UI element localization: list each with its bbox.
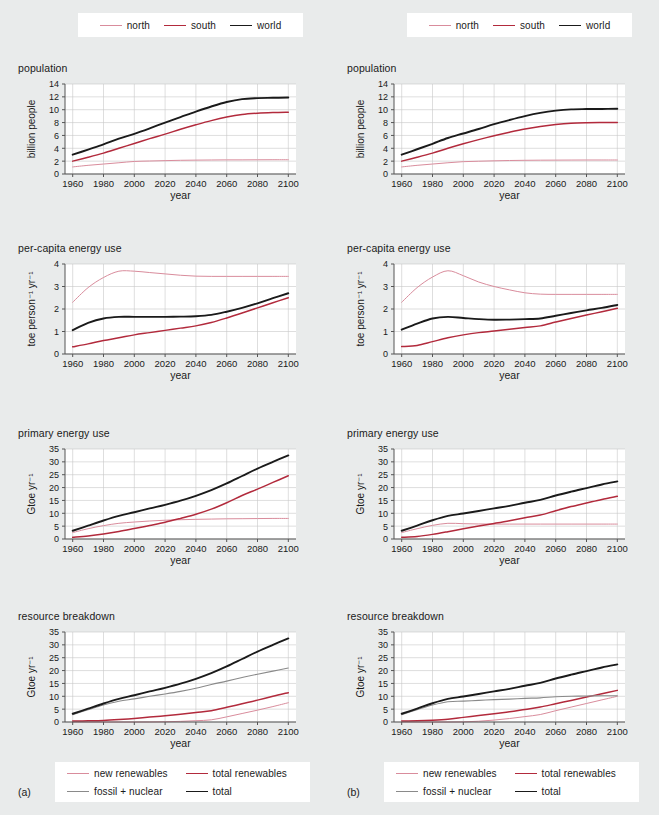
- panel-title: population: [347, 62, 396, 74]
- plot-area: 0123419601980200020202040206020802100yea…: [0, 256, 330, 382]
- x-tick-label: 2000: [124, 543, 145, 554]
- chart-svg: 0246810121419601980200020202040206020802…: [0, 76, 330, 202]
- legend-item: world: [559, 20, 610, 31]
- x-tick-label: 2020: [155, 178, 176, 189]
- y-tick-label: 8: [54, 118, 59, 128]
- x-tick-label: 2100: [278, 178, 299, 189]
- y-tick-label: 10: [378, 509, 388, 519]
- legend-swatch-line-icon: [164, 25, 186, 26]
- y-tick-label: 10: [378, 692, 388, 702]
- chart-svg: 0510152025303519601980200020202040206020…: [329, 441, 659, 567]
- x-tick-label: 2080: [576, 358, 597, 369]
- y-tick-label: 15: [49, 679, 59, 689]
- x-tick-label: 2000: [124, 358, 145, 369]
- chart-svg: 0246810121419601980200020202040206020802…: [329, 76, 659, 202]
- legend-item: world: [230, 20, 281, 31]
- chart-svg: 0510152025303519601980200020202040206020…: [0, 441, 330, 567]
- legend-label: world: [586, 20, 610, 31]
- x-tick-label: 2040: [185, 358, 206, 369]
- chart-svg: 0123419601980200020202040206020802100yea…: [0, 256, 330, 382]
- x-tick-label: 2020: [155, 358, 176, 369]
- y-axis-label: Gtoe yr⁻¹: [355, 473, 366, 515]
- legend-swatch-line-icon: [230, 25, 252, 26]
- x-tick-label: 2000: [453, 543, 474, 554]
- x-tick-label: 2060: [216, 726, 237, 737]
- y-tick-label: 6: [54, 131, 59, 141]
- y-tick-label: 30: [378, 640, 388, 650]
- panel-title: resource breakdown: [18, 610, 115, 622]
- x-tick-label: 1980: [93, 178, 114, 189]
- legend-item: fossil + nuclear: [396, 786, 515, 797]
- y-tick-label: 0: [383, 349, 388, 359]
- legend-label: fossil + nuclear: [94, 786, 163, 797]
- y-tick-label: 25: [49, 653, 59, 663]
- x-tick-label: 2020: [484, 543, 505, 554]
- y-tick-label: 15: [49, 496, 59, 506]
- x-tick-label: 2000: [124, 178, 145, 189]
- y-tick-label: 4: [54, 259, 59, 269]
- legend-label: north: [127, 20, 150, 31]
- x-tick-label: 2000: [124, 726, 145, 737]
- y-tick-label: 25: [378, 653, 388, 663]
- panel-column-b: northsouthworld population 0246810121419…: [329, 0, 659, 815]
- legend-item: north: [100, 20, 150, 31]
- y-tick-label: 10: [49, 509, 59, 519]
- legend-label: fossil + nuclear: [423, 786, 492, 797]
- y-tick-label: 2: [383, 304, 388, 314]
- legend-item: total renewables: [186, 768, 305, 779]
- y-tick-label: 12: [49, 92, 59, 102]
- x-tick-label: 2000: [453, 726, 474, 737]
- x-tick-label: 2060: [216, 178, 237, 189]
- legend-swatch-line-icon: [493, 25, 515, 26]
- legend-swatch-line-icon: [396, 773, 418, 774]
- y-tick-label: 20: [378, 483, 388, 493]
- legend-swatch-line-icon: [67, 791, 89, 792]
- x-tick-label: 2040: [185, 543, 206, 554]
- legend-bottom-a: new renewablestotal renewablesfossil + n…: [55, 762, 310, 802]
- y-tick-label: 1: [54, 327, 59, 337]
- y-tick-label: 35: [378, 444, 388, 454]
- legend-item: fossil + nuclear: [67, 786, 186, 797]
- x-tick-label: 2080: [247, 726, 268, 737]
- x-tick-label: 1980: [93, 726, 114, 737]
- x-axis-label: year: [170, 369, 191, 381]
- legend-label: new renewables: [423, 768, 497, 779]
- x-tick-label: 2040: [514, 726, 535, 737]
- legend-label: total: [542, 786, 561, 797]
- x-tick-label: 2100: [278, 543, 299, 554]
- x-tick-label: 2040: [514, 543, 535, 554]
- plot-area: 0123419601980200020202040206020802100yea…: [329, 256, 659, 382]
- legend-item: total: [515, 786, 634, 797]
- y-axis-label: Gtoe yr⁻¹: [355, 656, 366, 698]
- x-tick-label: 2060: [545, 178, 566, 189]
- x-axis-label: year: [170, 554, 191, 566]
- x-tick-label: 2060: [545, 543, 566, 554]
- x-tick-label: 2000: [453, 178, 474, 189]
- legend-swatch-line-icon: [67, 773, 89, 774]
- x-axis-label: year: [170, 189, 191, 201]
- legend-top-a: northsouthworld: [78, 13, 303, 37]
- x-tick-label: 1960: [391, 543, 412, 554]
- legend-label: north: [456, 20, 479, 31]
- legend-item: new renewables: [396, 768, 515, 779]
- y-tick-label: 0: [54, 169, 59, 179]
- y-tick-label: 10: [49, 105, 59, 115]
- plot-area: 0246810121419601980200020202040206020802…: [0, 76, 330, 202]
- y-axis-label: billion people: [26, 99, 37, 158]
- legend-label: total renewables: [542, 768, 616, 779]
- x-tick-label: 2040: [185, 178, 206, 189]
- panel-tag-a: (a): [18, 786, 31, 798]
- x-tick-label: 1980: [422, 358, 443, 369]
- x-tick-label: 1960: [391, 178, 412, 189]
- legend-swatch-line-icon: [186, 791, 208, 792]
- x-tick-label: 2020: [484, 726, 505, 737]
- y-tick-label: 30: [49, 640, 59, 650]
- y-tick-label: 5: [383, 705, 388, 715]
- x-tick-label: 1980: [422, 543, 443, 554]
- panel-title: population: [18, 62, 67, 74]
- x-axis-label: year: [499, 737, 520, 749]
- y-tick-label: 0: [54, 349, 59, 359]
- legend-item: total: [186, 786, 305, 797]
- y-tick-label: 1: [383, 327, 388, 337]
- x-tick-label: 2040: [514, 178, 535, 189]
